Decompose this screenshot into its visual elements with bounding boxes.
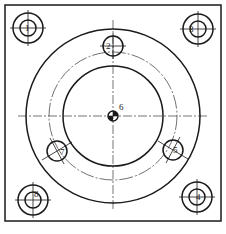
corner-boss-8: 8 — [15, 182, 51, 218]
center-mark: 6 — [108, 102, 124, 121]
corner-boss-1: 1 — [10, 10, 46, 46]
corner-boss-4: 4 — [179, 179, 215, 215]
label-2: 2 — [106, 41, 111, 51]
label-4: 4 — [196, 192, 201, 202]
hole-5: 5 — [158, 137, 188, 163]
label-8: 8 — [34, 189, 39, 199]
hole-7: 7 — [42, 138, 72, 164]
label-1: 1 — [25, 23, 30, 33]
hole-2: 2 — [100, 33, 126, 59]
label-7: 7 — [60, 147, 65, 157]
corner-boss-3: 3 — [180, 11, 216, 47]
technical-drawing: 6 2 5 7 1 3 — [0, 0, 226, 234]
label-3: 3 — [189, 24, 194, 34]
label-5: 5 — [173, 145, 178, 155]
label-6: 6 — [119, 102, 124, 112]
